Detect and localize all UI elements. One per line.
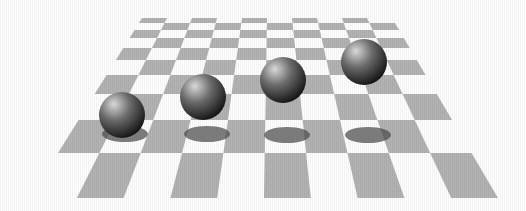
- sphere-3-shadow: [264, 127, 310, 143]
- sphere-4-shadow: [345, 127, 391, 143]
- rendered-scene: [0, 0, 526, 211]
- checkerboard: [0, 0, 526, 211]
- sphere-2-shadow: [184, 126, 230, 142]
- sphere-2: [180, 74, 226, 120]
- sphere-4: [341, 39, 387, 85]
- sphere-3: [260, 57, 306, 103]
- sphere-1: [99, 92, 145, 138]
- board-texture: [0, 0, 526, 211]
